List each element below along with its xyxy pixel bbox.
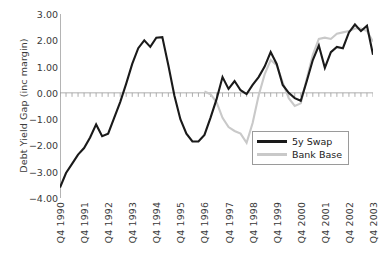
x-axis-tick-label: Q4 1992 <box>103 202 114 243</box>
x-axis-tick-labels: Q4 1990Q4 1991Q4 1992Q4 1993Q4 1994Q4 19… <box>0 200 379 253</box>
x-axis-tick-label: Q4 1998 <box>248 202 259 243</box>
x-axis-tick-label: Q4 1991 <box>79 202 90 243</box>
plot-area <box>60 14 373 198</box>
plot-svg <box>60 14 373 198</box>
y-axis-tick-label: 0.00 <box>18 87 58 98</box>
x-axis-tick-label: Q4 2000 <box>296 202 307 243</box>
legend-label: 5y Swap <box>292 136 332 147</box>
x-axis-tick-label: Q4 2001 <box>320 202 331 243</box>
x-axis-tick-label: Q4 1993 <box>127 202 138 243</box>
x-axis-tick-label: Q4 1997 <box>224 202 235 243</box>
y-axis-tick-label: −1.00 <box>18 114 58 125</box>
y-axis-tick-label: 1.00 <box>18 61 58 72</box>
legend-label: Bank Base <box>292 149 342 160</box>
chart-container: Debt Yield Gap (inc margin) 3.002.001.00… <box>0 0 379 253</box>
x-axis-tick-label: Q4 1995 <box>175 202 186 243</box>
y-axis-tick-label: 2.00 <box>18 35 58 46</box>
x-axis-tick-label: Q4 2002 <box>344 202 355 243</box>
legend-swatch-icon <box>257 140 287 143</box>
y-axis-tick-label: 3.00 <box>18 9 58 20</box>
legend-item: Bank Base <box>257 148 342 161</box>
legend: 5y SwapBank Base <box>252 131 349 165</box>
x-axis-tick-label: Q4 2003 <box>368 202 379 243</box>
x-axis-tick-label: Q4 1996 <box>199 202 210 243</box>
x-axis-tick-label: Q4 1990 <box>55 202 66 243</box>
x-axis-tick-label: Q4 1994 <box>151 202 162 243</box>
y-axis-tick-label: −2.00 <box>18 140 58 151</box>
x-axis-tick-label: Q4 1999 <box>272 202 283 243</box>
y-axis-tick-label: −3.00 <box>18 166 58 177</box>
legend-item: 5y Swap <box>257 135 342 148</box>
legend-swatch-icon <box>257 153 287 156</box>
